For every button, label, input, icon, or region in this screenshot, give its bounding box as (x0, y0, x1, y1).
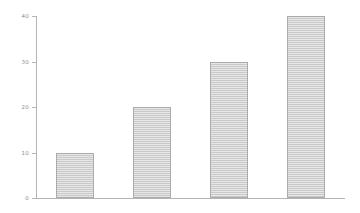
y-tick-label: 30 (22, 58, 29, 66)
bar-1[interactable] (56, 153, 94, 199)
bar-chart: 010203040 (0, 0, 360, 213)
y-tick-label: 40 (22, 12, 29, 20)
bar-4[interactable] (287, 16, 325, 198)
x-axis-line (36, 198, 345, 199)
bar-2[interactable] (133, 107, 171, 198)
bar-3[interactable] (210, 62, 248, 199)
plot-area (36, 16, 345, 198)
y-tick-label: 10 (22, 149, 29, 157)
y-tick-label: 20 (22, 103, 29, 111)
y-tick-label: 0 (25, 194, 29, 202)
y-tick-mark (32, 198, 36, 199)
